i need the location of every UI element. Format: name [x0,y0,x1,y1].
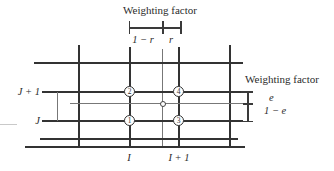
weight-1-minus-r-label: 1 − r [126,34,160,45]
right-bracket-tick-top [241,91,253,93]
ruler-tick-middle [162,21,164,34]
grid-hline-top [34,62,243,64]
weight-r-label: r [164,34,178,45]
row-label-J: J [14,115,40,126]
grid-hline-row-J-plus-1 [42,91,241,93]
right-bracket-line [247,91,249,122]
column-label-I-plus-1: I + 1 [166,152,192,163]
node-circle-1: 1 [124,115,135,126]
grid-hline-lower [40,138,238,140]
column-label-I: I [122,152,136,163]
ruler-tick-left [129,21,131,34]
weight-e-label: e [269,92,274,103]
right-bracket-tick-middle [243,103,253,105]
weight-1-minus-e-label: 1 − e [264,105,286,116]
grid-hline-row-J [42,120,243,122]
node-circle-2: 2 [124,86,135,97]
node-circle-3: 3 [173,115,184,126]
interpolation-weighting-diagram: Weighting factor 1 − r r J + 1 J I I + 1… [0,0,334,171]
ruler-tick-right [180,21,182,34]
right-weighting-factor-label: Weighting factor [245,73,319,85]
interpolation-point-marker [160,101,166,107]
row-label-J-plus-1: J + 1 [14,86,40,97]
scan-artifact-line [0,124,17,125]
left-row-connector-line [57,92,58,121]
ruler-line [129,27,182,29]
grid-hline-bottom [25,146,245,148]
node-circle-4: 4 [173,86,184,97]
interpolation-hline [70,103,243,104]
grid-vline-outer-left [78,45,80,148]
right-bracket-tick-bottom [241,121,253,123]
grid-vline-outer-right [229,45,231,148]
top-weighting-factor-label: Weighting factor [110,4,210,16]
